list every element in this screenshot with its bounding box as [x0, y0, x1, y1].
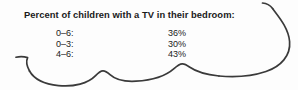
- figure-title: Percent of children with a TV in their b…: [24, 9, 235, 21]
- stat-list: 0–6: 36% 0–3: 30% 4–6: 43%: [56, 28, 206, 60]
- figure-callout: Percent of children with a TV in their b…: [0, 0, 298, 90]
- stat-value: 30%: [168, 39, 186, 50]
- stat-label: 0–3:: [56, 39, 74, 50]
- stat-label: 4–6:: [56, 49, 74, 60]
- stat-value: 43%: [168, 49, 186, 60]
- stat-row: 4–6: 43%: [56, 49, 206, 60]
- callout-content: Percent of children with a TV in their b…: [0, 0, 298, 90]
- stat-row: 0–6: 36%: [56, 28, 206, 39]
- stat-value: 36%: [168, 28, 186, 39]
- stat-label: 0–6:: [56, 28, 74, 39]
- stat-row: 0–3: 30%: [56, 39, 206, 50]
